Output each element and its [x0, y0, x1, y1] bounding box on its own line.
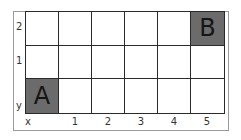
point-b-label: B: [191, 16, 224, 40]
grid-cell: [59, 12, 92, 46]
grid-cell: [26, 46, 59, 80]
grid-cell: [158, 12, 191, 46]
grid-cell: [158, 79, 191, 113]
grid-cell: [125, 12, 158, 46]
x-tick-4: 4: [169, 117, 179, 127]
grid-cell: [59, 79, 92, 113]
grid-cell: [59, 46, 92, 80]
y-axis-label: y: [16, 101, 22, 111]
x-axis-label: x: [23, 117, 33, 127]
x-tick-5: 5: [202, 117, 212, 127]
grid-cell: [158, 46, 191, 80]
grid-cell: [26, 12, 59, 46]
grid-cell: [92, 12, 125, 46]
x-tick-3: 3: [136, 117, 146, 127]
point-a-label: A: [26, 84, 58, 108]
grid-cell-point-a: A: [26, 79, 59, 113]
grid-cell: [191, 79, 224, 113]
grid-cell-point-b: B: [191, 12, 224, 46]
x-tick-2: 2: [103, 117, 113, 127]
grid-cell: [125, 79, 158, 113]
grid-cell: [92, 46, 125, 80]
y-tick-2: 2: [16, 22, 22, 32]
grid-cell: [191, 46, 224, 80]
grid-cell: [92, 79, 125, 113]
y-tick-1: 1: [16, 56, 22, 66]
coordinate-grid: B A: [25, 11, 225, 114]
grid-cell: [125, 46, 158, 80]
x-tick-1: 1: [70, 117, 80, 127]
